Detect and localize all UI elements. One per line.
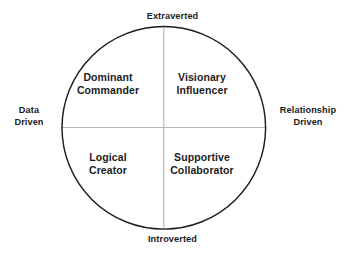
quadrant-label-supportive-collaborator-line1: Supportive	[150, 151, 254, 164]
quadrant-label-logical-creator: Logical Creator	[56, 151, 160, 178]
axis-label-introverted: Introverted	[0, 234, 345, 246]
quadrant-label-supportive-collaborator-line2: Collaborator	[150, 164, 254, 177]
quadrant-label-logical-creator-line1: Logical	[56, 151, 160, 164]
quadrant-graphic	[0, 0, 345, 259]
axis-label-data-driven-line2: Driven	[0, 117, 58, 129]
quadrant-label-dominant-commander: Dominant Commander	[56, 71, 160, 98]
quadrant-label-supportive-collaborator: Supportive Collaborator	[150, 151, 254, 178]
axis-label-relationship-driven: Relationship Driven	[271, 105, 345, 128]
axis-label-relationship-driven-line1: Relationship	[271, 105, 345, 117]
quadrant-label-logical-creator-line2: Creator	[56, 164, 160, 177]
quadrant-label-visionary-influencer: Visionary Influencer	[150, 71, 254, 98]
axis-label-extraverted: Extraverted	[0, 11, 345, 23]
quadrant-label-visionary-influencer-line1: Visionary	[150, 71, 254, 84]
axis-label-relationship-driven-line2: Driven	[271, 117, 345, 129]
quadrant-label-dominant-commander-line2: Commander	[56, 84, 160, 97]
axis-label-data-driven: Data Driven	[0, 105, 58, 128]
quadrant-label-dominant-commander-line1: Dominant	[56, 71, 160, 84]
quadrant-diagram: Extraverted Introverted Data Driven Rela…	[0, 0, 345, 259]
axis-label-data-driven-line1: Data	[0, 105, 58, 117]
quadrant-label-visionary-influencer-line2: Influencer	[150, 84, 254, 97]
